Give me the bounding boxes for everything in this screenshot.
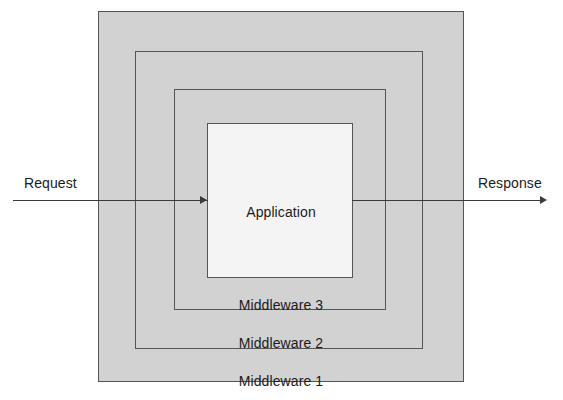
request-arrowhead-icon: [200, 196, 207, 204]
middleware-3-label: Middleware 3: [99, 297, 463, 313]
application-label: Application: [99, 204, 463, 220]
response-label: Response: [478, 175, 542, 191]
response-arrow-line: [352, 200, 543, 201]
middleware-2-label: Middleware 2: [99, 335, 463, 351]
response-arrowhead-icon: [540, 196, 547, 204]
request-arrow-line: [13, 200, 208, 201]
application-box: [207, 123, 353, 278]
middleware-1-box: Application Middleware 3 Middleware 2 Mi…: [98, 11, 464, 382]
diagram-canvas: Application Middleware 3 Middleware 2 Mi…: [0, 0, 563, 400]
request-label: Request: [24, 175, 77, 191]
middleware-1-label: Middleware 1: [99, 373, 463, 389]
